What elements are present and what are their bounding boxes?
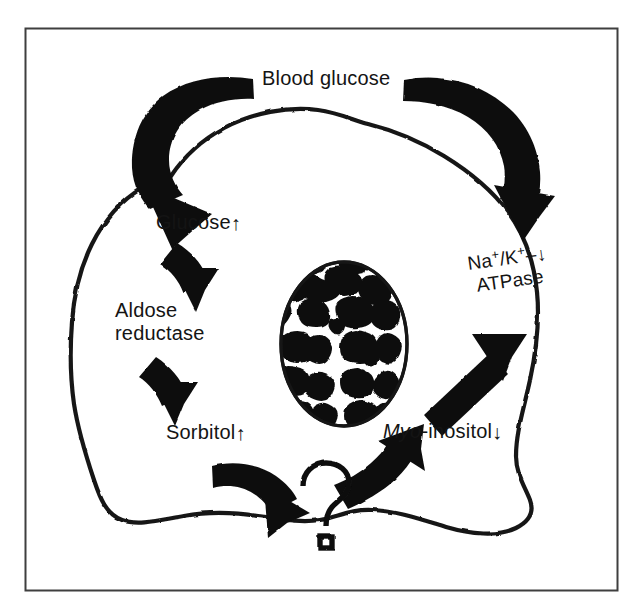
label-glucose-text: Glucose xyxy=(156,211,231,233)
label-myo-rest: -inositol xyxy=(421,420,492,442)
label-aldose-reductase: Aldose reductase xyxy=(115,299,205,345)
label-glucose: Glucose↑ xyxy=(156,212,241,235)
diagram-canvas xyxy=(0,0,642,614)
label-myo-italic: Myo xyxy=(383,420,421,442)
label-aldose-line1: Aldose xyxy=(115,299,205,322)
label-atpase-na: Na xyxy=(466,250,493,274)
myo-inositol-down-arrow-icon: ↓ xyxy=(492,422,502,444)
figure-panel: Blood glucose Glucose↑ Aldose reductase … xyxy=(0,0,642,614)
label-sorbitol: Sorbitol↑ xyxy=(166,422,245,445)
label-sorbitol-text: Sorbitol xyxy=(166,421,235,443)
arrow-blood-glucose-to-atpase xyxy=(403,78,555,241)
glucose-up-arrow-icon: ↑ xyxy=(231,213,241,235)
arrow-aldose-reductase-to-sorbitol xyxy=(139,357,198,426)
label-myo-inositol: Myo-inositol↓ xyxy=(383,421,502,444)
label-aldose-line2: reductase xyxy=(115,322,205,345)
sorbitol-up-arrow-icon: ↑ xyxy=(235,423,245,445)
question-mark-glyph xyxy=(303,463,349,548)
arrow-sorbitol-to-question xyxy=(212,463,310,538)
label-blood-glucose: Blood glucose xyxy=(262,68,390,90)
